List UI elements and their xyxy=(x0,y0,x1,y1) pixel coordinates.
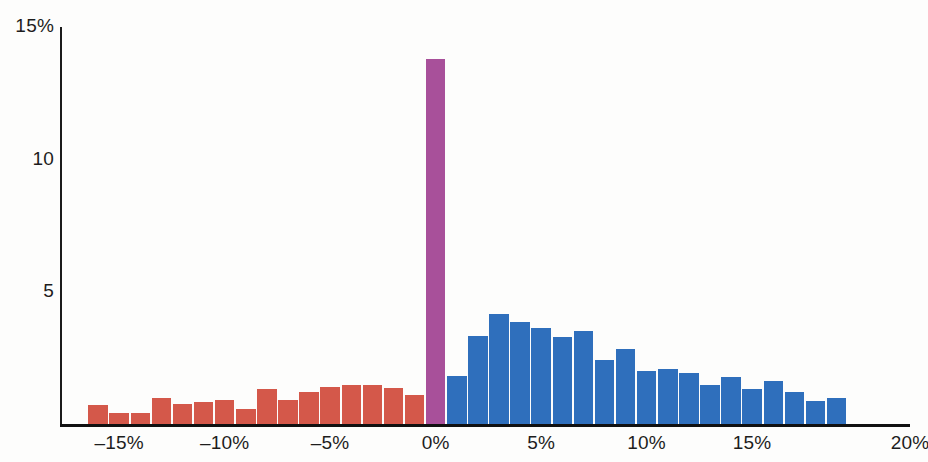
bar xyxy=(785,392,805,425)
bar xyxy=(806,401,826,425)
bar xyxy=(257,389,277,425)
bar xyxy=(658,369,678,425)
x-axis-tick-label: 10% xyxy=(627,432,666,454)
x-axis-tick-label: –5% xyxy=(311,432,350,454)
bar xyxy=(742,389,762,425)
bars-layer xyxy=(0,0,928,425)
bar xyxy=(426,59,446,425)
bar xyxy=(299,392,319,425)
x-axis-tick-label: 0% xyxy=(422,432,450,454)
histogram-chart: 15%105 –15%–10%–5%0%5%10%15%20% xyxy=(0,0,928,462)
x-axis-tick-label: 5% xyxy=(527,432,555,454)
bar xyxy=(574,331,594,425)
bar xyxy=(342,385,362,425)
bar xyxy=(320,387,340,425)
bar xyxy=(489,314,509,425)
bar xyxy=(278,400,298,425)
bar xyxy=(468,336,488,425)
y-axis-tick: 5 xyxy=(0,280,54,302)
bar xyxy=(595,360,615,425)
bar xyxy=(384,388,404,425)
bar xyxy=(827,398,847,425)
y-axis-tick-label: 10 xyxy=(2,148,54,170)
bar xyxy=(173,404,193,425)
y-axis-tick: 15% xyxy=(0,15,54,37)
y-axis-tick-label: 15% xyxy=(2,15,54,37)
bar xyxy=(363,385,383,425)
bar xyxy=(405,395,425,426)
bar xyxy=(88,405,108,425)
x-axis-tick-label: 20% xyxy=(891,432,928,454)
y-axis-tick-label: 5 xyxy=(2,280,54,302)
bar xyxy=(194,402,214,425)
bar xyxy=(152,398,172,425)
bar xyxy=(721,377,741,425)
bar xyxy=(215,400,235,425)
bar xyxy=(637,371,657,425)
plot-area xyxy=(0,0,928,425)
x-axis-tick-label: –10% xyxy=(200,432,249,454)
bar xyxy=(553,337,573,425)
bar xyxy=(764,381,784,425)
bar xyxy=(236,409,256,425)
x-axis-line xyxy=(60,424,910,427)
y-axis-tick: 10 xyxy=(0,148,54,170)
x-axis-tick-label: 15% xyxy=(733,432,772,454)
bar xyxy=(510,322,530,425)
bar xyxy=(447,376,467,425)
y-axis-line xyxy=(60,27,62,426)
bar xyxy=(531,328,551,425)
bar xyxy=(679,373,699,425)
bar xyxy=(616,349,636,425)
bar xyxy=(700,385,720,425)
x-axis-tick-label: –15% xyxy=(94,432,143,454)
